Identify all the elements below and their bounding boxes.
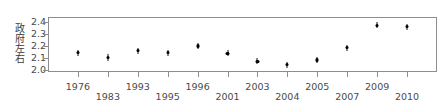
x-axis-tick-label: 2004: [275, 91, 299, 102]
x-axis-tick-label: 1996: [186, 81, 210, 92]
x-axis-tick-mark: [108, 72, 109, 77]
x-axis-tick-label: 2007: [335, 91, 359, 102]
x-axis-tick-mark: [377, 72, 378, 77]
data-point: [253, 58, 262, 64]
data-point: [103, 54, 112, 60]
data-point: [283, 62, 292, 68]
data-point-marker: [405, 25, 408, 28]
data-point-marker: [256, 60, 259, 63]
chart-container: 政府左右 2.42.32.22.12.0 1976198319931995199…: [0, 0, 448, 112]
x-axis-tick-mark: [228, 72, 229, 77]
x-axis-tick-mark: [317, 72, 318, 77]
data-point: [373, 22, 382, 28]
y-axis-tick-mark: [43, 34, 48, 35]
data-point: [343, 45, 352, 51]
data-point-marker: [106, 56, 109, 59]
x-axis-tick-label: 2001: [215, 91, 239, 102]
x-axis-tick-label: 1993: [126, 81, 150, 92]
data-point: [193, 43, 202, 49]
data-point: [73, 50, 82, 56]
x-axis-tick-mark: [347, 72, 348, 77]
y-axis-tick-mark: [43, 70, 48, 71]
data-point-marker: [136, 49, 139, 52]
x-axis-tick-label: 1995: [156, 91, 180, 102]
x-axis-tick-label: 2009: [365, 81, 389, 92]
data-point: [163, 50, 172, 56]
x-axis-tick-mark: [138, 72, 139, 77]
data-point: [133, 48, 142, 54]
data-point-marker: [376, 24, 379, 27]
data-point: [313, 57, 322, 63]
data-point-marker: [166, 51, 169, 54]
data-point-marker: [76, 51, 79, 54]
y-axis-tick-mark: [43, 58, 48, 59]
data-point-marker: [346, 46, 349, 49]
x-axis-tick-label: 1983: [96, 91, 120, 102]
x-axis-tick-label: 1976: [66, 81, 90, 92]
x-axis-tick-mark: [168, 72, 169, 77]
x-axis-tick-label: 2010: [395, 91, 419, 102]
x-axis-tick-label: 2005: [305, 81, 329, 92]
x-axis-tick-mark: [407, 72, 408, 77]
x-axis-tick-label: 2003: [245, 81, 269, 92]
x-axis-tick-mark: [78, 72, 79, 77]
x-axis-tick-mark: [198, 72, 199, 77]
x-axis-tick-mark: [257, 72, 258, 77]
y-axis-tick-mark: [43, 22, 48, 23]
data-point-marker: [316, 58, 319, 61]
data-point: [403, 24, 412, 30]
data-point-marker: [286, 63, 289, 66]
data-point-marker: [196, 44, 199, 47]
y-axis-tick-mark: [43, 46, 48, 47]
data-point-marker: [226, 52, 229, 55]
y-axis-title: 政府左右: [9, 15, 25, 71]
data-point: [223, 50, 232, 56]
y-axis-tick-label-group: 2.42.32.22.12.0: [24, 0, 46, 112]
x-axis-tick-mark: [287, 72, 288, 77]
